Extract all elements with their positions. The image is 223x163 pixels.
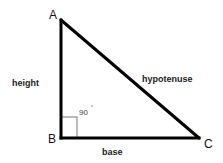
right-triangle-diagram: A B C height hypotenuse base 90 ° bbox=[0, 0, 223, 163]
degree-symbol: ° bbox=[91, 104, 93, 110]
vertex-label-c: C bbox=[204, 137, 213, 151]
angle-label: 90 bbox=[79, 108, 88, 117]
side-label-height: height bbox=[12, 78, 39, 88]
side-label-base: base bbox=[102, 147, 123, 157]
vertex-label-a: A bbox=[49, 8, 57, 22]
vertex-label-b: B bbox=[48, 132, 56, 146]
side-label-hypotenuse: hypotenuse bbox=[142, 74, 193, 84]
right-angle-marker bbox=[61, 117, 77, 138]
